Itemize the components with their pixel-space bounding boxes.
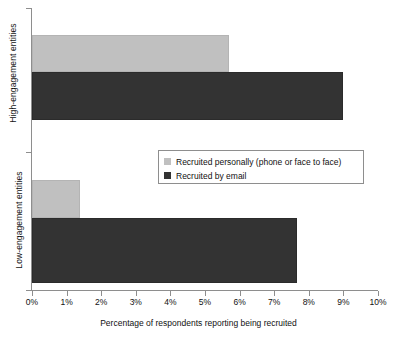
x-axis-tick-mark <box>309 291 310 296</box>
legend-item-recruited-by-email: Recruited by email <box>164 169 358 182</box>
legend-swatch-icon-personal <box>164 158 171 165</box>
bar-high-engagement-recruited-by-email <box>32 72 343 120</box>
chart-legend: Recruited personally (phone or face to f… <box>158 150 364 184</box>
x-axis-tick-mark <box>205 291 206 296</box>
x-axis-tick-mark <box>136 291 137 296</box>
legend-item-recruited-personally: Recruited personally (phone or face to f… <box>164 155 358 168</box>
y-axis-category-label-low-engagement: Low-engagement entities <box>14 165 24 275</box>
y-axis-tick-top <box>26 8 32 9</box>
y-axis-tick-category-separator <box>26 152 32 153</box>
bar-high-engagement-recruited-personally <box>32 35 229 72</box>
x-axis-tick-label: 10% <box>358 297 397 307</box>
bar-low-engagement-recruited-by-email <box>32 218 297 283</box>
legend-label-recruited-personally: Recruited personally (phone or face to f… <box>176 157 341 167</box>
x-axis-title: Percentage of respondents reporting bein… <box>0 318 397 328</box>
x-axis-tick-mark <box>274 291 275 296</box>
bar-chart: High-engagement entities Low-engagement … <box>0 0 397 337</box>
legend-label-recruited-by-email: Recruited by email <box>176 171 246 181</box>
x-axis-tick-mark <box>378 291 379 296</box>
x-axis-tick-mark <box>32 291 33 296</box>
x-axis-tick-mark <box>101 291 102 296</box>
x-axis-tick-mark <box>343 291 344 296</box>
x-axis-tick-mark <box>170 291 171 296</box>
y-axis-category-label-high-engagement: High-engagement entities <box>8 18 18 128</box>
x-axis-tick-mark <box>67 291 68 296</box>
x-axis-tick-mark <box>240 291 241 296</box>
legend-swatch-icon-email <box>164 172 171 179</box>
bar-low-engagement-recruited-personally <box>32 180 80 218</box>
